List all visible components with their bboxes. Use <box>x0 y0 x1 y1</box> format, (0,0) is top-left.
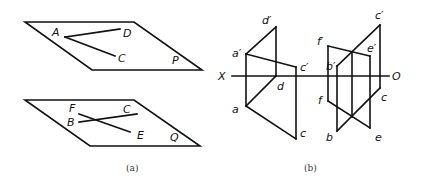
label-c-lower: c <box>300 127 306 140</box>
label-f: F <box>69 102 76 115</box>
label-c-prime: c′ <box>300 61 309 74</box>
proj-bc <box>337 88 380 131</box>
label-e-lower: e <box>375 131 382 144</box>
proj-a1c1 <box>246 54 296 67</box>
label-e-prime: e′ <box>367 42 377 55</box>
label-b: B <box>67 116 75 129</box>
line-ac <box>65 37 115 56</box>
line-ad <box>65 29 120 37</box>
label-q: Q <box>170 131 179 144</box>
caption-a: (a) <box>126 163 138 173</box>
label-e: E <box>137 129 144 142</box>
caption-b: (b) <box>304 163 317 173</box>
label-b-lower: b <box>326 131 333 144</box>
label-c2: C <box>123 103 131 116</box>
figure-b: X O d′ a′ c′ d a c c′ f′ e′ b′ f c b e (… <box>217 9 401 173</box>
proj-a1d1 <box>246 27 276 54</box>
label-b-prime: b′ <box>326 60 336 73</box>
label-c-prime-right: c′ <box>375 9 384 22</box>
label-d-prime: d′ <box>262 14 272 27</box>
label-c-lower-right: c <box>381 91 387 104</box>
diagram-canvas: A D C P F B C E Q (a) X O d′ a′ c′ d a c <box>0 0 421 186</box>
label-a: A <box>51 26 60 39</box>
label-o: O <box>392 70 401 83</box>
label-c: C <box>118 52 126 65</box>
label-f-prime: f′ <box>317 35 324 48</box>
label-d-lower: d <box>277 80 285 93</box>
label-d: D <box>123 27 131 40</box>
label-f-lower: f <box>318 94 324 107</box>
figure-a: A D C P F B C E Q (a) <box>25 22 202 173</box>
label-x: X <box>217 70 226 83</box>
label-a-prime: a′ <box>232 47 242 60</box>
proj-ad <box>246 76 276 106</box>
proj-ac <box>246 106 296 139</box>
label-a-lower: a <box>232 103 239 116</box>
label-p: P <box>172 54 179 67</box>
